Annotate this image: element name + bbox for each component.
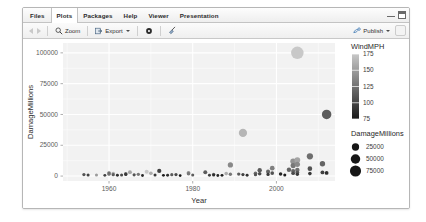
toolbar-divider-4 [160, 26, 161, 36]
toolbar-divider [47, 26, 48, 36]
tab-viewer-label: Viewer [148, 12, 168, 19]
x-axis-title: Year [191, 196, 207, 205]
toolbar-divider-3 [137, 26, 138, 36]
data-point [107, 171, 111, 175]
data-point [187, 172, 191, 176]
zoom-label: Zoom [65, 28, 80, 34]
tab-presentation[interactable]: Presentation [175, 8, 225, 22]
tab-plots[interactable]: Plots [51, 8, 79, 23]
data-point [103, 174, 106, 177]
publish-label: Publish [363, 28, 383, 34]
y-tick-label: 100000 [36, 49, 58, 56]
size-legend-marker [351, 154, 360, 163]
data-point [216, 174, 219, 177]
window-controls [387, 11, 406, 19]
data-point [224, 172, 228, 176]
data-point [325, 171, 329, 175]
data-point [283, 173, 286, 176]
forward-arrow-icon[interactable] [37, 28, 41, 34]
data-point [112, 173, 115, 176]
tab-viewer[interactable]: Viewer [143, 8, 174, 22]
size-legend-marker [352, 143, 359, 150]
size-legend-marker [350, 165, 361, 176]
pane-layout-button[interactable] [395, 25, 406, 36]
gear-icon [145, 27, 153, 35]
data-point [141, 174, 144, 177]
data-point [87, 173, 90, 176]
export-label: Export [105, 28, 122, 34]
data-point [124, 173, 127, 176]
data-point [174, 173, 177, 176]
rstudio-plots-pane: Files Plots Packages Help Viewer Present… [22, 7, 410, 209]
back-arrow-icon[interactable] [29, 28, 33, 34]
minimize-icon[interactable] [387, 11, 395, 19]
tab-presentation-label: Presentation [180, 12, 219, 19]
x-tick-label: 1960 [102, 185, 117, 192]
data-point [254, 173, 257, 176]
data-point [296, 173, 299, 176]
export-button[interactable]: Export [92, 26, 132, 36]
data-point [228, 162, 233, 167]
clear-plots-button[interactable] [165, 25, 180, 36]
data-point [270, 171, 274, 175]
data-point [137, 173, 140, 176]
maximize-icon[interactable] [398, 11, 406, 19]
data-point [229, 173, 232, 176]
data-point [212, 174, 215, 177]
data-point [320, 161, 325, 166]
size-legend-label: 50000 [366, 155, 384, 162]
remove-plot-button[interactable] [142, 26, 156, 36]
data-point [128, 170, 132, 174]
data-point [221, 174, 224, 177]
data-point [266, 173, 269, 176]
data-point [133, 173, 136, 176]
chevron-down-icon[interactable] [126, 30, 130, 32]
size-legend-label: 25000 [366, 143, 384, 150]
colorbar-tick-label: 150 [363, 66, 374, 73]
data-point [257, 168, 261, 172]
data-point [295, 162, 300, 167]
zoom-button[interactable]: Zoom [52, 26, 83, 36]
tab-help[interactable]: Help [119, 8, 144, 22]
size-legend-label: 75000 [366, 167, 384, 174]
tab-packages[interactable]: Packages [78, 8, 118, 22]
tab-files-label: Files [30, 12, 45, 19]
y-tick-label: 50000 [40, 111, 59, 118]
data-point [291, 171, 295, 175]
x-tick-label: 1980 [185, 185, 200, 192]
y-tick-label: 75000 [40, 80, 59, 87]
data-point [287, 167, 291, 171]
scatter-plot: 0250005000075000100000196019802000YearDa… [23, 39, 409, 209]
y-tick-label: 25000 [40, 141, 59, 148]
colorbar-tick-label: 125 [363, 83, 374, 90]
colorbar-tick-label: 100 [363, 99, 374, 106]
data-point [116, 174, 119, 177]
data-point [95, 174, 98, 177]
data-point [166, 174, 169, 177]
data-point [239, 129, 247, 137]
colorbar-tick-label: 75 [363, 115, 371, 122]
data-point [237, 172, 240, 175]
data-point [145, 170, 149, 174]
data-point [308, 166, 313, 171]
data-point [179, 174, 182, 177]
data-point [157, 169, 161, 173]
publish-chevron-down-icon[interactable] [386, 30, 390, 32]
pane-tabstrip: Files Plots Packages Help Viewer Present… [23, 8, 409, 23]
x-tick-label: 2000 [269, 185, 284, 192]
toolbar-right-group: Publish [350, 23, 406, 38]
tab-help-label: Help [124, 12, 138, 19]
y-tick-label: 0 [54, 172, 58, 179]
export-icon [95, 27, 103, 35]
data-point [149, 172, 153, 176]
data-point [322, 110, 331, 119]
toolbar-divider-2 [87, 26, 88, 36]
tab-files[interactable]: Files [25, 8, 51, 22]
plots-toolbar: Zoom Export [23, 23, 409, 39]
publish-button[interactable]: Publish [350, 26, 393, 36]
data-point [120, 173, 123, 176]
data-point [279, 172, 282, 175]
broom-icon [168, 26, 177, 35]
data-point [208, 174, 211, 177]
data-point [203, 170, 207, 174]
